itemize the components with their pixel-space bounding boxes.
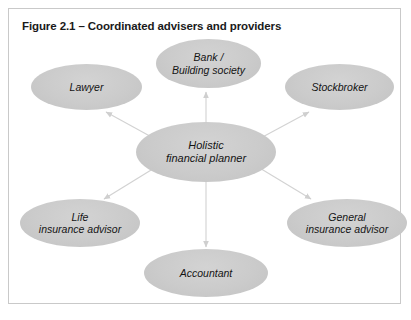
node-label: Bank / Building society — [166, 51, 251, 76]
diagram-canvas: Bank / Building society Lawyer Stockbrok… — [9, 9, 402, 305]
node-accountant[interactable]: Accountant — [144, 249, 268, 297]
node-lawyer[interactable]: Lawyer — [31, 64, 142, 110]
connector-to-general-insurance — [258, 167, 311, 199]
node-life-insurance-advisor[interactable]: Life insurance advisor — [20, 199, 140, 247]
figure-frame: Figure 2.1 – Coordinated advisers and pr… — [8, 8, 401, 304]
node-label: Life insurance advisor — [33, 211, 127, 236]
node-bank-building-society[interactable]: Bank / Building society — [156, 39, 261, 88]
node-stockbroker[interactable]: Stockbroker — [285, 64, 394, 110]
node-label: Stockbroker — [305, 81, 373, 93]
node-label: Holistic financial planner — [160, 139, 252, 165]
node-label: Lawyer — [64, 81, 110, 93]
node-label: General insurance advisor — [300, 211, 394, 236]
node-general-insurance-advisor[interactable]: General insurance advisor — [287, 199, 407, 247]
node-holistic-financial-planner[interactable]: Holistic financial planner — [136, 122, 276, 182]
node-label: Accountant — [174, 267, 239, 279]
connector-to-life-insurance — [104, 167, 156, 199]
